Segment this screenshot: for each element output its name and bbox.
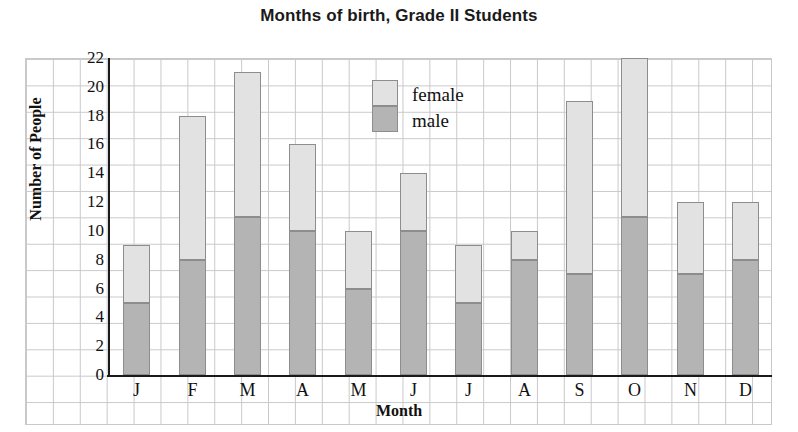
bar-segment-male (621, 217, 648, 376)
x-axis-tick-label: J (449, 380, 489, 402)
bar-segment-male (234, 217, 261, 376)
bar-group (566, 58, 593, 375)
legend-label-female: female (412, 85, 464, 104)
y-axis-title: Number of People (27, 79, 45, 239)
bar-segment-male (123, 303, 150, 375)
bar-segment-female (234, 72, 261, 216)
bar-segment-male (289, 231, 316, 375)
bar-segment-female (566, 101, 593, 274)
bar-segment-male (179, 260, 206, 375)
chart-legend: female male (372, 80, 562, 134)
x-axis-tick-labels: JFMAMJJASOND (108, 380, 772, 406)
bar-chart: Months of birth, Grade II Students Numbe… (0, 0, 798, 432)
y-axis-tick-label: 16 (74, 135, 104, 152)
y-axis-tick-labels: 0246810121416182022 (70, 58, 104, 375)
x-axis-tick-label: A (505, 380, 545, 402)
bar-segment-male (345, 289, 372, 375)
y-axis-tick-label: 22 (74, 49, 104, 66)
y-axis-tick-label: 6 (74, 280, 104, 297)
bar-segment-male (511, 260, 538, 375)
x-axis-tick-label: O (615, 380, 655, 402)
y-axis-tick-label: 18 (74, 107, 104, 124)
y-axis-tick-label: 10 (74, 222, 104, 239)
bar-segment-female (345, 231, 372, 289)
legend-swatch-male (372, 106, 398, 132)
bar-group (621, 58, 648, 375)
x-axis-tick-label: A (283, 380, 323, 402)
bar-segment-male (732, 260, 759, 375)
bar-segment-female (179, 116, 206, 260)
x-axis-tick-label: M (339, 380, 379, 402)
x-axis-tick-label: J (394, 380, 434, 402)
bar-group (345, 58, 372, 375)
bar-segment-female (677, 202, 704, 274)
bar-group (123, 58, 150, 375)
bar-segment-male (400, 231, 427, 375)
y-axis-tick-label: 12 (74, 193, 104, 210)
bar-segment-male (677, 274, 704, 375)
x-axis-tick-label: J (117, 380, 157, 402)
bar-group (677, 58, 704, 375)
x-axis-tick-label: N (671, 380, 711, 402)
x-axis-tick-label: F (173, 380, 213, 402)
y-axis-tick-label: 2 (74, 337, 104, 354)
legend-label-male: male (412, 111, 449, 130)
bar-segment-female (289, 144, 316, 230)
bar-segment-male (455, 303, 482, 375)
bar-segment-male (566, 274, 593, 375)
legend-swatch-female (372, 80, 398, 106)
x-axis-tick-label: S (560, 380, 600, 402)
bar-segment-female (732, 202, 759, 260)
bar-segment-female (511, 231, 538, 260)
y-axis-tick-label: 0 (74, 366, 104, 383)
x-axis-tick-label: D (726, 380, 766, 402)
y-axis-tick-label: 14 (74, 164, 104, 181)
bar-segment-female (621, 58, 648, 217)
x-axis-tick-label: M (228, 380, 268, 402)
bar-segment-female (400, 173, 427, 231)
bar-group (732, 58, 759, 375)
bar-segment-female (455, 245, 482, 303)
bar-group (289, 58, 316, 375)
bar-group (179, 58, 206, 375)
bar-segment-female (123, 245, 150, 303)
y-axis-tick-label: 4 (74, 308, 104, 325)
x-axis-line (107, 375, 772, 377)
bar-group (234, 58, 261, 375)
chart-title: Months of birth, Grade II Students (0, 6, 798, 26)
y-axis-tick-label: 20 (74, 78, 104, 95)
y-axis-tick-label: 8 (74, 251, 104, 268)
